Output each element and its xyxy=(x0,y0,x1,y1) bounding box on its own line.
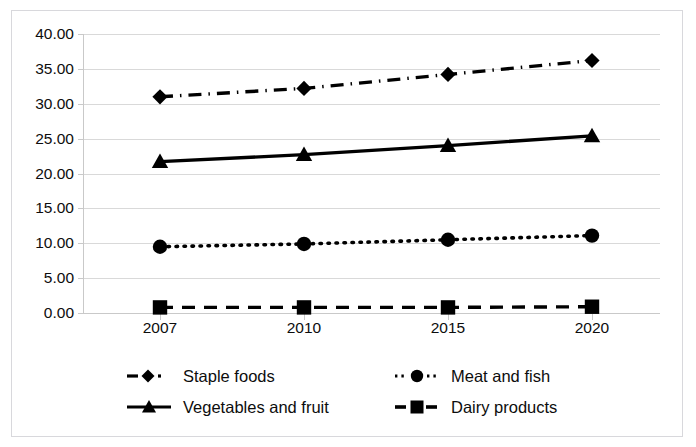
legend-label-dairy-products: Dairy products xyxy=(451,399,557,416)
data-point-square[interactable] xyxy=(441,300,455,314)
series-dairy-products xyxy=(153,300,599,315)
series-line xyxy=(160,236,592,247)
legend-label-meat-and-fish: Meat and fish xyxy=(451,368,550,385)
triangle-marker-icon xyxy=(125,394,181,420)
chart-legend: Staple foods Meat and fish Vegetables an… xyxy=(125,362,645,424)
diamond-marker-icon xyxy=(125,363,181,389)
data-point-circle[interactable] xyxy=(585,228,599,242)
data-point-diamond[interactable] xyxy=(296,81,311,96)
series-staple-foods xyxy=(152,53,599,104)
legend-item-dairy-products[interactable]: Dairy products xyxy=(393,393,557,421)
square-marker-icon xyxy=(393,394,449,420)
legend-item-staple-foods[interactable]: Staple foods xyxy=(125,362,275,390)
data-point-circle[interactable] xyxy=(297,237,311,251)
data-point-diamond[interactable] xyxy=(440,67,455,82)
series-line xyxy=(160,136,592,162)
data-point-circle[interactable] xyxy=(441,233,455,247)
legend-item-meat-and-fish[interactable]: Meat and fish xyxy=(393,362,550,390)
series-line xyxy=(160,307,592,308)
legend-row-2: Vegetables and fruit Dairy products xyxy=(125,393,645,421)
series-vegetables-and-fruit xyxy=(152,128,600,168)
data-point-square[interactable] xyxy=(585,300,599,314)
legend-label-vegetables-and-fruit: Vegetables and fruit xyxy=(183,399,329,416)
legend-item-vegetables-and-fruit[interactable]: Vegetables and fruit xyxy=(125,393,329,421)
circle-marker-icon xyxy=(393,363,449,389)
data-point-diamond[interactable] xyxy=(152,89,167,104)
data-point-square[interactable] xyxy=(297,300,311,314)
chart-container: 40.00 35.00 30.00 25.00 20.00 15.00 10.0… xyxy=(0,0,696,447)
legend-label-staple-foods: Staple foods xyxy=(183,368,275,385)
legend-row-1: Staple foods Meat and fish xyxy=(125,362,645,390)
series-meat-and-fish xyxy=(153,228,599,254)
data-point-diamond[interactable] xyxy=(584,53,599,68)
series-line xyxy=(160,61,592,97)
data-point-circle[interactable] xyxy=(153,240,167,254)
data-point-square[interactable] xyxy=(153,300,167,314)
